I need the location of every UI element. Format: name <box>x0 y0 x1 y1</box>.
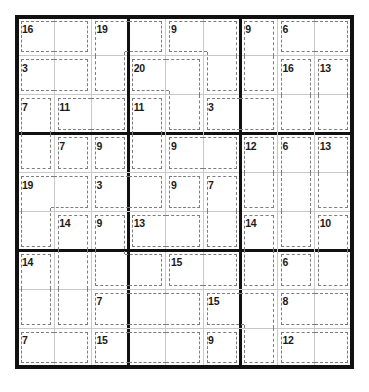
cell-r8c7[interactable] <box>240 289 277 328</box>
cell-r7c8[interactable]: 6 <box>278 250 315 289</box>
cell-r4c7[interactable]: 12 <box>240 134 277 173</box>
cell-r8c2[interactable] <box>54 289 91 328</box>
cell-r4c6[interactable] <box>203 134 240 173</box>
cell-r3c1[interactable]: 7 <box>17 95 54 134</box>
cell-r7c7[interactable] <box>240 250 277 289</box>
cell-r3c4[interactable]: 11 <box>129 95 166 134</box>
cage-border-top <box>129 21 163 22</box>
cell-r1c7[interactable]: 9 <box>240 17 277 56</box>
cell-r6c4[interactable]: 13 <box>129 211 166 250</box>
cage-sum-label: 13 <box>320 63 331 74</box>
cell-r1c6[interactable] <box>203 17 240 56</box>
cell-r9c9[interactable] <box>315 328 352 367</box>
cage-sum-label: 13 <box>320 141 331 152</box>
cell-r5c7[interactable] <box>240 173 277 212</box>
cell-r5c5[interactable]: 9 <box>166 173 203 212</box>
cell-r5c8[interactable] <box>278 173 315 212</box>
cell-r4c5[interactable]: 9 <box>166 134 203 173</box>
cell-r4c3[interactable]: 9 <box>91 134 128 173</box>
cell-r4c4[interactable] <box>129 134 166 173</box>
cell-r4c8[interactable]: 6 <box>278 134 315 173</box>
cell-r6c5[interactable] <box>166 211 203 250</box>
cell-r9c4[interactable] <box>129 328 166 367</box>
cell-r7c5[interactable]: 15 <box>166 250 203 289</box>
cell-r8c8[interactable]: 8 <box>278 289 315 328</box>
cell-r7c3[interactable] <box>91 250 128 289</box>
cell-r6c8[interactable] <box>278 211 315 250</box>
cell-r4c1[interactable] <box>17 134 54 173</box>
cell-r5c9[interactable] <box>315 173 352 212</box>
cell-r5c3[interactable]: 3 <box>91 173 128 212</box>
cell-r5c2[interactable] <box>54 173 91 212</box>
cage-border-left <box>21 176 22 211</box>
cage-sum-label: 19 <box>96 24 107 35</box>
cell-r2c3[interactable] <box>91 56 128 95</box>
cell-r7c4[interactable] <box>129 250 166 289</box>
cage-border-top <box>21 254 51 255</box>
cell-r1c1[interactable]: 16 <box>17 17 54 56</box>
cell-r6c3[interactable]: 9 <box>91 211 128 250</box>
cell-r1c2[interactable] <box>54 17 91 56</box>
cage-border-left <box>207 211 208 246</box>
cell-r1c8[interactable]: 6 <box>278 17 315 56</box>
cell-r8c5[interactable] <box>166 289 203 328</box>
cell-r3c5[interactable] <box>166 95 203 134</box>
cell-r7c1[interactable]: 14 <box>17 250 54 289</box>
cell-r3c7[interactable] <box>240 95 277 134</box>
cell-r3c2[interactable]: 11 <box>54 95 91 134</box>
cell-r9c6[interactable]: 9 <box>203 328 240 367</box>
cage-border-bottom <box>95 90 125 91</box>
cell-r3c8[interactable] <box>278 95 315 134</box>
cell-r5c6[interactable]: 7 <box>203 173 240 212</box>
cell-r9c8[interactable]: 12 <box>278 328 315 367</box>
cell-r2c5[interactable] <box>166 56 203 95</box>
cell-r6c2[interactable]: 14 <box>54 211 91 250</box>
cell-r3c9[interactable] <box>315 95 352 134</box>
cell-r1c4[interactable] <box>129 17 166 56</box>
cell-r2c7[interactable] <box>240 56 277 95</box>
cell-r8c4[interactable] <box>129 289 166 328</box>
cage-border-right <box>347 21 348 53</box>
cell-r7c2[interactable] <box>54 250 91 289</box>
cell-r5c4[interactable] <box>129 173 166 212</box>
cell-r3c3[interactable] <box>91 95 128 134</box>
cell-r8c9[interactable] <box>315 289 352 328</box>
cell-r9c1[interactable]: 7 <box>17 328 54 367</box>
cage-border-left <box>244 215 245 250</box>
cell-r7c9[interactable] <box>315 250 352 289</box>
cell-r9c5[interactable] <box>166 328 203 367</box>
cell-r2c1[interactable]: 3 <box>17 56 54 95</box>
cage-border-top <box>203 254 237 255</box>
cell-r1c9[interactable] <box>315 17 352 56</box>
cell-r8c1[interactable] <box>17 289 54 328</box>
cell-r6c1[interactable] <box>17 211 54 250</box>
cage-border-bottom <box>244 90 274 91</box>
cell-r4c9[interactable]: 13 <box>315 134 352 173</box>
cell-r1c5[interactable]: 9 <box>166 17 203 56</box>
cage-sum-label: 14 <box>245 218 256 229</box>
cell-r6c7[interactable]: 14 <box>240 211 277 250</box>
cell-r2c9[interactable]: 13 <box>315 56 352 95</box>
cage-border-left <box>281 59 282 94</box>
cell-r9c7[interactable] <box>240 328 277 367</box>
cell-r2c8[interactable]: 16 <box>278 56 315 95</box>
cell-r9c2[interactable] <box>54 328 91 367</box>
cage-border-bottom <box>244 207 274 208</box>
cell-r2c2[interactable] <box>54 56 91 95</box>
cell-r3c6[interactable]: 3 <box>203 95 240 134</box>
cell-r7c6[interactable] <box>203 250 240 289</box>
cage-border-right <box>347 173 348 208</box>
cell-r8c6[interactable]: 15 <box>203 289 240 328</box>
cell-r8c3[interactable]: 7 <box>91 289 128 328</box>
cell-r9c3[interactable]: 15 <box>91 328 128 367</box>
cell-r6c6[interactable] <box>203 211 240 250</box>
cage-border-left <box>21 254 22 289</box>
cage-border-right <box>161 254 162 286</box>
cell-r5c1[interactable]: 19 <box>17 173 54 212</box>
cage-border-left <box>169 254 170 286</box>
cell-r4c2[interactable]: 7 <box>54 134 91 173</box>
cell-r1c3[interactable]: 19 <box>91 17 128 56</box>
cell-r2c6[interactable] <box>203 56 240 95</box>
cell-r6c9[interactable]: 10 <box>315 211 352 250</box>
cell-r2c4[interactable]: 20 <box>129 56 166 95</box>
